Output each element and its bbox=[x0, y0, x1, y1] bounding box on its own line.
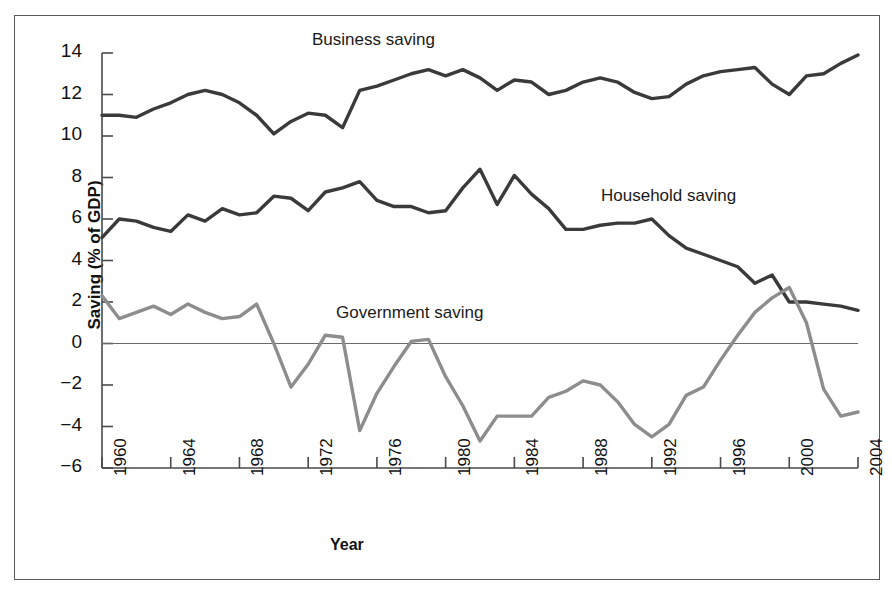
series-annotation-household: Household saving bbox=[601, 186, 736, 206]
y-tick-label: 14 bbox=[34, 40, 82, 62]
x-tick-label: 1972 bbox=[317, 438, 337, 476]
figure-container: Saving (% of GDP) Year −6−4−202468101214… bbox=[0, 0, 892, 599]
series-line-business bbox=[102, 55, 858, 134]
x-tick-label: 1984 bbox=[523, 438, 543, 476]
y-tick-label: 4 bbox=[34, 248, 82, 270]
y-tick-label: 2 bbox=[34, 289, 82, 311]
y-tick-label: 10 bbox=[34, 123, 82, 145]
x-tick-label: 1976 bbox=[386, 438, 406, 476]
series-annotation-business: Business saving bbox=[312, 30, 435, 50]
y-tick-label: −4 bbox=[34, 414, 82, 436]
y-tick-label: 6 bbox=[34, 206, 82, 228]
y-tick-label: −2 bbox=[34, 372, 82, 394]
chart-plot-area bbox=[0, 0, 892, 599]
data-series-group bbox=[102, 55, 858, 441]
x-tick-label: 1980 bbox=[455, 438, 475, 476]
axes bbox=[102, 53, 858, 468]
x-tick-label: 1964 bbox=[180, 438, 200, 476]
y-tick-label: 0 bbox=[34, 331, 82, 353]
x-tick-label: 1992 bbox=[661, 438, 681, 476]
x-tick-label: 1968 bbox=[248, 438, 268, 476]
y-tick-label: 12 bbox=[34, 82, 82, 104]
y-tick-label: −6 bbox=[34, 455, 82, 477]
series-line-household bbox=[102, 169, 858, 310]
x-tick-label: 2004 bbox=[867, 438, 887, 476]
x-tick-label: 2000 bbox=[798, 438, 818, 476]
x-tick-label: 1988 bbox=[592, 438, 612, 476]
series-annotation-government: Government saving bbox=[336, 303, 483, 323]
x-tick-label: 1996 bbox=[730, 438, 750, 476]
x-tick-label: 1960 bbox=[111, 438, 131, 476]
y-tick-label: 8 bbox=[34, 165, 82, 187]
